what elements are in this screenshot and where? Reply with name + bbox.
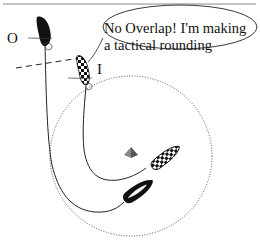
overlap-line [16, 58, 80, 68]
bubble-pointer [88, 38, 103, 62]
inside-boat-rounding [149, 142, 183, 172]
mark-icon [124, 147, 138, 158]
inside-boat [68, 56, 92, 90]
outside-boat [28, 17, 52, 50]
diagram-canvas: O I No Overlap! I'm making a tactical ro… [0, 0, 260, 241]
outside-boat-label: O [7, 31, 18, 46]
speech-bubble-line-1: No Overlap! I'm making [104, 20, 256, 37]
outside-boat-rounding [121, 175, 157, 206]
inside-boat-track [83, 86, 146, 180]
inside-boat-label: I [97, 62, 102, 77]
speech-bubble-text: No Overlap! I'm making a tactical roundi… [104, 20, 256, 54]
speech-bubble-line-2: a tactical rounding [104, 37, 256, 54]
